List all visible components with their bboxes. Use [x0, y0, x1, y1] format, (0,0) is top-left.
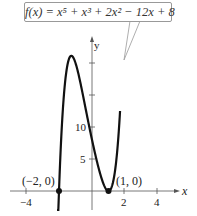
x-axis-label: x	[181, 184, 188, 198]
point-neg2-0	[56, 188, 62, 194]
point-label-1: (1, 0)	[116, 174, 142, 188]
callout-pointer	[124, 21, 140, 60]
y-axis-label: y	[94, 39, 100, 51]
x-tick-label-2: 2	[121, 196, 127, 208]
function-curve	[57, 56, 120, 210]
x-axis-arrow-icon	[174, 189, 180, 193]
y-tick-label-10: 10	[75, 121, 87, 133]
y-tick-label-5: 5	[80, 153, 86, 165]
point-label-neg2: (−2, 0)	[22, 174, 55, 188]
point-1-0	[106, 188, 112, 194]
x-tick-label-4: 4	[154, 196, 160, 208]
equation-callout: f(x) = x⁵ + x³ + 2x² − 12x + 8	[24, 2, 172, 22]
x-tick-label-neg4: −4	[20, 196, 32, 208]
function-graph: y x −4 2 4 5 10 (−2, 0) (1, 0)	[0, 0, 197, 216]
